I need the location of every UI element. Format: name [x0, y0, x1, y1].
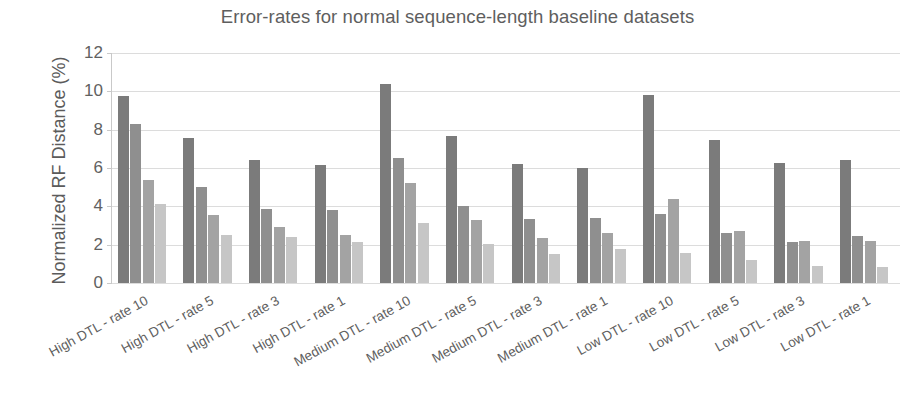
bar[interactable] [524, 219, 535, 283]
bar[interactable] [840, 160, 851, 283]
bar[interactable] [261, 209, 272, 283]
bar[interactable] [286, 237, 297, 283]
bar-group [112, 53, 178, 283]
bar[interactable] [418, 223, 429, 283]
bar-group [572, 53, 638, 283]
bar[interactable] [799, 241, 810, 283]
bar[interactable] [549, 254, 560, 283]
bar-group [243, 53, 309, 283]
bar[interactable] [471, 220, 482, 283]
bar-group [506, 53, 572, 283]
bar[interactable] [446, 136, 457, 283]
bar[interactable] [643, 95, 654, 283]
bar-group [309, 53, 375, 283]
bar[interactable] [709, 140, 720, 283]
x-axis-tick-label: Low DTL - rate 5 [0, 293, 741, 396]
bar[interactable] [787, 242, 798, 283]
bar[interactable] [812, 266, 823, 283]
y-axis-tick-label: 2 [94, 235, 103, 255]
bar[interactable] [680, 253, 691, 283]
bar-group [375, 53, 441, 283]
bar[interactable] [512, 164, 523, 283]
bar[interactable] [590, 218, 601, 283]
y-axis-tick-label: 10 [84, 81, 103, 101]
bar[interactable] [865, 241, 876, 283]
bar[interactable] [221, 235, 232, 283]
bar[interactable] [118, 96, 129, 283]
bar[interactable] [877, 267, 888, 283]
y-axis-tick-label: 6 [94, 158, 103, 178]
bar[interactable] [774, 163, 785, 283]
chart-title: Error-rates for normal sequence-length b… [0, 6, 915, 28]
y-axis-tick-label: 8 [94, 120, 103, 140]
bar[interactable] [405, 183, 416, 283]
y-axis-tick-label: 12 [84, 43, 103, 63]
bar[interactable] [746, 260, 757, 283]
bar[interactable] [183, 138, 194, 283]
bar[interactable] [668, 199, 679, 283]
bar[interactable] [143, 180, 154, 284]
bar-group [178, 53, 244, 283]
bar[interactable] [458, 206, 469, 283]
gridline [112, 283, 900, 284]
bar[interactable] [537, 238, 548, 283]
bar[interactable] [393, 158, 404, 283]
y-axis-tick-mark [107, 283, 112, 284]
bar[interactable] [196, 187, 207, 283]
bar-group [769, 53, 835, 283]
bar[interactable] [852, 236, 863, 283]
bar-group [834, 53, 900, 283]
bar[interactable] [602, 233, 613, 283]
bar[interactable] [734, 231, 745, 283]
bar[interactable] [130, 124, 141, 283]
bar[interactable] [615, 249, 626, 284]
bar[interactable] [155, 204, 166, 283]
bar[interactable] [352, 242, 363, 283]
bar[interactable] [274, 227, 285, 283]
bar[interactable] [315, 165, 326, 283]
bar[interactable] [249, 160, 260, 283]
y-axis-title: Normalized RF Distance (%) [49, 51, 70, 291]
bar-group [637, 53, 703, 283]
bar[interactable] [380, 84, 391, 283]
bar[interactable] [340, 235, 351, 283]
bar[interactable] [208, 215, 219, 283]
plot-area: 024681012 [112, 53, 900, 283]
bar-group [440, 53, 506, 283]
y-axis-tick-label: 4 [94, 196, 103, 216]
bar[interactable] [577, 168, 588, 283]
chart-figure: Error-rates for normal sequence-length b… [0, 0, 915, 396]
bar[interactable] [655, 214, 666, 283]
y-axis-tick-label: 0 [94, 273, 103, 293]
bar[interactable] [483, 244, 494, 283]
bar[interactable] [327, 210, 338, 283]
bar[interactable] [721, 233, 732, 283]
bar-group [703, 53, 769, 283]
